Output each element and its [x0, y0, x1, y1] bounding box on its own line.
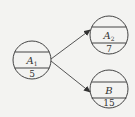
- edge-a1-to-b: [51, 61, 90, 92]
- node-a1: A1 5: [13, 41, 51, 79]
- node-b-value: 15: [103, 98, 115, 108]
- edge-a1-to-a2: [51, 30, 90, 59]
- node-a2-value: 7: [106, 44, 112, 54]
- node-b: B 15: [90, 70, 128, 108]
- node-a1-label: A1: [25, 55, 37, 67]
- network-diagram: A1 5 A2 7 B 15: [0, 0, 135, 117]
- node-a2-label: A2: [102, 30, 114, 42]
- node-a1-value: 5: [29, 69, 35, 79]
- node-b-label: B: [104, 85, 112, 96]
- node-a2: A2 7: [90, 16, 128, 54]
